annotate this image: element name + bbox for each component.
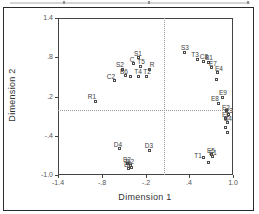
crosshair-vertical-line [164,18,165,175]
data-point-label: E4 [215,65,223,72]
data-point-label: R [150,61,155,68]
data-point-label: D3 [145,142,153,149]
data-point-marker [129,75,132,78]
data-point-label: T1 [194,152,202,159]
data-point-label: E9 [219,89,227,96]
y-axis-tick-label: -1.0 [29,171,53,178]
data-point-marker [183,51,186,54]
x-axis-tick [233,175,234,178]
data-point-label: B6 [120,68,128,75]
y-axis-title: Dimension 2 [7,59,17,131]
data-point-label: E1 [209,149,217,156]
data-point-label: C2 [107,73,115,80]
y-axis-tick [55,175,58,176]
data-point-marker [130,166,133,169]
data-point-marker [148,149,151,152]
y-axis-tick [55,18,58,19]
y-axis-tick-label: -.4 [29,132,53,139]
data-point-marker [221,96,224,99]
cropped-caption-fragment [63,1,65,4]
data-point-label: R1 [88,93,96,100]
cropped-caption-remnant [10,2,250,4]
x-axis-title: Dimension 1 [100,192,190,202]
cropped-caption-fragment [247,1,249,4]
x-axis-tick [58,175,59,178]
x-axis-tick-label: 1.0 [228,179,238,186]
data-point-label: E8 [211,95,219,102]
data-point-label: S2 [116,61,124,68]
crosshair-horizontal-line [58,110,233,111]
data-point-label: T2 [143,68,151,75]
data-point-marker [202,156,205,159]
data-point-marker [207,161,210,164]
x-axis-tick [146,175,147,178]
data-point-marker [226,131,229,134]
y-axis-tick-label: 1.4 [29,14,53,21]
x-axis-tick-label: .4 [186,179,192,186]
data-point-marker [196,58,199,61]
y-axis-tick-label: .2 [29,93,53,100]
data-point-label: C [130,56,135,63]
figure-frame: Dimension 1 Dimension 2 -1.4-.8-.2.41.01… [3,7,254,211]
x-axis-tick-label: -1.4 [52,179,64,186]
data-point-marker [217,102,220,105]
data-point-label: T3 [191,51,199,58]
screenshot-root: Dimension 1 Dimension 2 -1.4-.8-.2.41.01… [0,0,259,214]
data-point-marker [215,78,218,81]
data-point-marker [94,100,97,103]
data-point-marker [137,75,140,78]
y-axis-tick-label: .8 [29,53,53,60]
data-point-label: T5 [137,58,145,65]
x-axis-tick-label: -.8 [98,179,106,186]
data-point-label: T4 [134,68,142,75]
data-point-label: D4 [114,141,122,148]
data-point-label: S3 [181,44,189,51]
y-axis-tick [55,57,58,58]
data-point-marker [145,75,148,78]
data-point-label: S1 [134,50,142,57]
data-point-label: B4 [224,115,232,122]
x-axis-tick [189,175,190,178]
y-axis-tick [55,97,58,98]
x-axis-tick [102,175,103,178]
cropped-caption-fragment [148,1,150,4]
data-point-marker [224,126,227,129]
x-axis-tick-label: -.2 [142,179,150,186]
y-axis-tick [55,136,58,137]
